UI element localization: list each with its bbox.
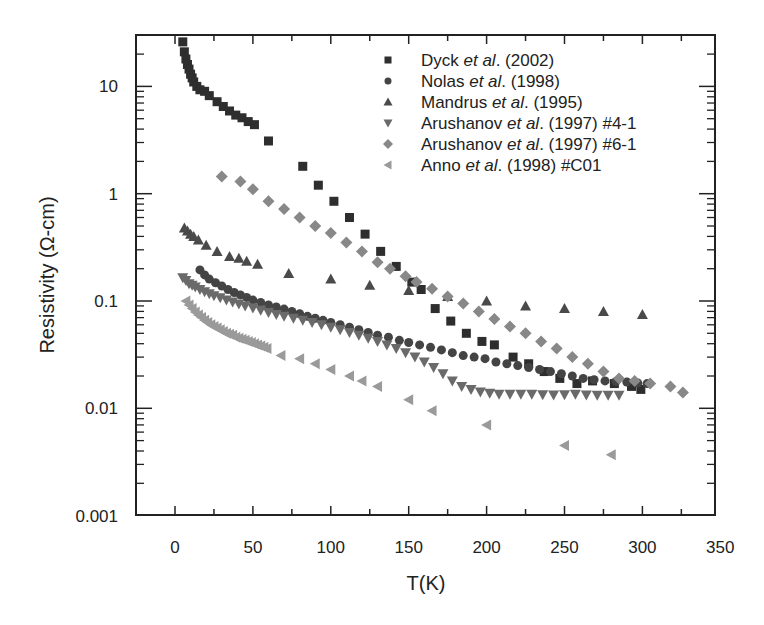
y-tick-label: 1 [109, 185, 118, 204]
legend-label: Nolas et al. (1998) [421, 72, 560, 91]
data-point [568, 371, 577, 380]
legend-label: Anno et al. (1998) #C01 [421, 156, 602, 175]
data-point [456, 382, 467, 392]
data-point [559, 390, 570, 400]
data-point [481, 296, 492, 306]
y-axis-ticks: 0.0010.010.1110 [75, 35, 715, 525]
data-point [462, 329, 471, 338]
data-point [428, 363, 439, 373]
data-point [329, 197, 338, 206]
data-point [178, 37, 187, 46]
data-point [426, 343, 435, 352]
data-point [477, 337, 486, 346]
legend-item: Mandrus et al. (1995) [384, 93, 583, 112]
data-point [294, 353, 304, 364]
data-point [404, 338, 413, 347]
data-point [524, 363, 533, 372]
data-point [263, 308, 274, 318]
data-point [504, 320, 516, 332]
y-tick-label: 0.01 [85, 399, 118, 418]
series-5 [180, 296, 615, 461]
data-point [400, 348, 411, 358]
data-point [275, 350, 285, 361]
x-tick-label: 300 [628, 538, 656, 557]
data-point [504, 390, 515, 400]
data-point [548, 391, 559, 401]
data-point [224, 251, 235, 261]
data-point [559, 303, 570, 313]
data-point [581, 391, 592, 401]
data-point [601, 376, 610, 385]
data-point [535, 335, 547, 347]
data-point [250, 120, 259, 129]
data-point [437, 345, 446, 354]
x-tick-label: 350 [706, 538, 734, 557]
series-1 [195, 265, 651, 388]
data-point [551, 343, 563, 355]
x-tick-label: 100 [317, 538, 345, 557]
legend-label: Arushanov et al. (1997) #6-1 [421, 135, 636, 154]
data-point [395, 336, 404, 345]
data-point [426, 283, 438, 295]
data-point [520, 327, 532, 339]
data-point [381, 340, 392, 350]
data-point [325, 227, 337, 239]
data-point [490, 340, 499, 349]
data-point [526, 390, 537, 400]
data-point [409, 353, 420, 363]
data-point [427, 405, 437, 416]
data-point [592, 391, 603, 401]
data-point [513, 361, 522, 370]
legend-marker-icon [385, 57, 392, 64]
data-point [345, 213, 354, 222]
data-point [294, 212, 306, 224]
legend-item: Nolas et al. (1998) [385, 72, 560, 91]
data-point [419, 358, 430, 368]
data-point [448, 348, 457, 357]
data-point [372, 256, 384, 268]
series-4 [216, 170, 689, 398]
data-point [364, 280, 375, 290]
legend-label: Mandrus et al. (1995) [421, 93, 583, 112]
data-point [570, 390, 581, 400]
x-tick-label: 200 [472, 538, 500, 557]
data-point [264, 300, 273, 309]
data-point [494, 390, 505, 400]
data-point [597, 366, 609, 378]
data-point [520, 300, 531, 310]
y-axis-title: Resistivity (Ω-cm) [36, 196, 58, 353]
data-point [307, 318, 318, 328]
legend-item: Dyck et al. (2002) [385, 51, 555, 70]
data-point [353, 331, 364, 341]
data-point [535, 365, 544, 374]
data-point [559, 440, 569, 451]
data-point [344, 328, 355, 338]
data-point [271, 310, 282, 320]
data-point [297, 316, 308, 326]
data-point [509, 353, 518, 362]
data-point [447, 376, 458, 386]
data-point [475, 387, 486, 397]
data-point [484, 389, 495, 399]
data-point [262, 195, 274, 207]
data-point [488, 313, 500, 325]
data-point [310, 358, 320, 369]
data-point [256, 298, 265, 307]
data-point [566, 351, 578, 363]
legend-marker-icon [384, 98, 393, 106]
legend-item: Arushanov et al. (1997) #6-1 [383, 135, 636, 154]
data-point [356, 245, 368, 257]
data-point [372, 337, 383, 347]
data-point [557, 369, 566, 378]
data-point [515, 390, 526, 400]
data-point [298, 162, 307, 171]
data-point [459, 351, 468, 360]
legend-label: Dyck et al. (2002) [421, 51, 554, 70]
x-tick-label: 0 [170, 538, 179, 557]
legend-marker-icon [384, 161, 392, 170]
data-point [415, 340, 424, 349]
data-point [325, 323, 336, 333]
data-point [403, 394, 413, 405]
data-point [372, 381, 382, 392]
data-point [248, 296, 257, 305]
